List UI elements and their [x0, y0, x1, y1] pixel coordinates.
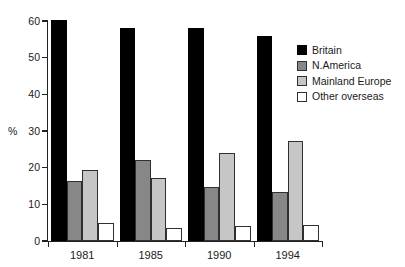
x-axis-tick — [117, 241, 118, 247]
y-axis-tick-label-slot: 50 — [14, 52, 40, 63]
legend-swatch-icon — [297, 61, 307, 71]
x-axis-tick-label: 1981 — [52, 249, 112, 261]
legend-item: Other overseas — [297, 90, 391, 104]
y-axis-tick-label: 30 — [22, 126, 40, 137]
bar — [98, 223, 114, 241]
bar — [82, 170, 98, 241]
bar — [135, 160, 151, 241]
y-axis-tick-label: 40 — [22, 89, 40, 100]
legend-item: Mainland Europe — [297, 74, 391, 88]
legend-swatch-icon — [297, 45, 307, 55]
bar — [272, 192, 288, 242]
y-axis-tick-label: 20 — [22, 162, 40, 173]
y-axis-tick-label: 0 — [22, 236, 40, 247]
y-axis-tick-label-slot: 30 — [14, 126, 40, 137]
bar — [235, 226, 251, 241]
x-axis-tick — [185, 241, 186, 247]
x-axis-tick-label: 1990 — [189, 249, 249, 261]
y-axis-tick-label-slot: 10 — [14, 199, 40, 210]
bar — [188, 28, 204, 241]
legend-label: Mainland Europe — [312, 76, 391, 87]
y-axis-tick-label: 10 — [22, 199, 40, 210]
bar — [51, 20, 67, 241]
x-axis-tick — [322, 241, 323, 247]
legend-label: N.America — [312, 60, 361, 71]
bar — [120, 28, 136, 241]
bar — [166, 228, 182, 241]
bar — [257, 36, 273, 241]
bar — [219, 153, 235, 241]
y-axis-tick-label-slot: 60 — [14, 16, 40, 27]
bar-chart: % 0102030405060 1981198519901994 Britain… — [0, 0, 405, 267]
legend-item: N.America — [297, 59, 391, 73]
y-axis-tick-label-slot: 40 — [14, 89, 40, 100]
bar — [204, 187, 220, 241]
bar — [303, 225, 319, 241]
y-axis-tick-label: 50 — [22, 52, 40, 63]
legend-label: Other overseas — [312, 91, 384, 102]
legend-swatch-icon — [297, 92, 307, 102]
bar — [288, 141, 304, 241]
y-axis-tick-label: 60 — [22, 16, 40, 27]
x-axis-tick — [48, 241, 49, 247]
x-axis-tick — [254, 241, 255, 247]
x-axis-tick-label: 1985 — [121, 249, 181, 261]
bar — [151, 178, 167, 241]
y-axis-tick-label-slot: 0 — [14, 236, 40, 247]
bar — [67, 181, 83, 242]
plot-area — [48, 21, 322, 241]
legend-swatch-icon — [297, 76, 307, 86]
chart-legend: BritainN.AmericaMainland EuropeOther ove… — [297, 43, 391, 105]
x-axis-tick-label: 1994 — [258, 249, 318, 261]
legend-label: Britain — [312, 45, 342, 56]
legend-item: Britain — [297, 43, 391, 57]
y-axis-tick-label-slot: 20 — [14, 162, 40, 173]
